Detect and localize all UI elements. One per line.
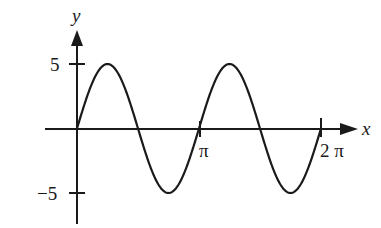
y-tick-label-5: 5 [50, 54, 60, 75]
x-axis-label: x [361, 118, 371, 139]
y-axis-arrow-icon [71, 30, 83, 46]
y-axis-label: y [70, 5, 81, 26]
y-tick-label-neg5: −5 [37, 183, 57, 204]
x-tick-label-pi: π [199, 140, 209, 161]
sine-chart: y x 5 −5 π 2 π [0, 0, 381, 228]
x-tick-label-2pi: 2 π [320, 140, 344, 161]
x-axis-arrow-icon [340, 123, 358, 135]
